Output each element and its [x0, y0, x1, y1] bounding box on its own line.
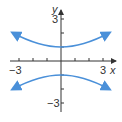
y-max-label: 3 [52, 13, 58, 25]
hyperbola-chart: y 3 −3 −3 3 x [0, 0, 122, 122]
x-max-label: 3 [100, 64, 106, 76]
lower-branch-left [13, 75, 61, 89]
lower-branch [61, 75, 109, 89]
y-min-label: −3 [47, 97, 60, 109]
upper-branch [61, 33, 109, 47]
x-min-label: −3 [9, 64, 22, 76]
upper-branch-left [13, 33, 61, 47]
x-axis-label: x [109, 64, 116, 76]
